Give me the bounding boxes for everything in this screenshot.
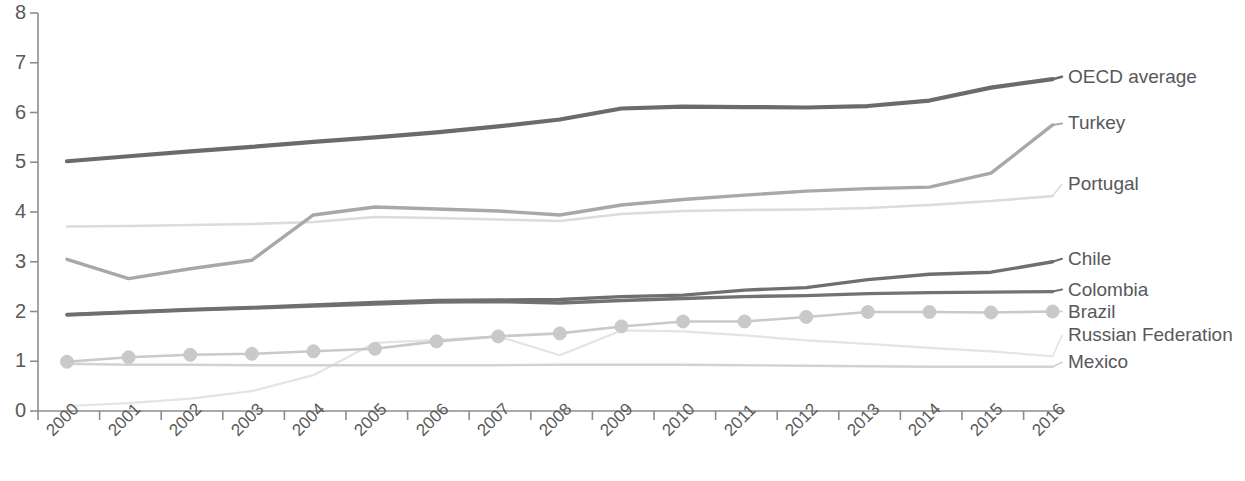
data-point-marker (122, 351, 135, 364)
data-point-marker (307, 345, 320, 358)
series-label-oecd-average: OECD average (1068, 67, 1197, 86)
series-chile (67, 262, 1053, 315)
series-leader-line (1053, 77, 1062, 79)
series-leader-line (1053, 259, 1062, 262)
series-label-mexico: Mexico (1068, 352, 1128, 371)
data-point-marker (245, 347, 258, 360)
data-point-marker (615, 320, 628, 333)
data-point-marker (923, 305, 936, 318)
series-label-portugal: Portugal (1068, 174, 1139, 193)
series-label-chile: Chile (1068, 249, 1111, 268)
data-point-marker (800, 310, 813, 323)
series-mexico (67, 364, 1053, 367)
series-leader-line (1053, 290, 1062, 292)
series-label-russian-federation: Russian Federation (1068, 325, 1233, 344)
y-axis-tick-label: 0 (0, 400, 26, 420)
line-chart: 012345678 200020012002200320042005200620… (0, 0, 1245, 481)
data-point-marker (430, 335, 443, 348)
series-portugal (67, 196, 1053, 226)
series-label-turkey: Turkey (1068, 113, 1125, 132)
series-leader-line (1053, 123, 1062, 124)
data-point-marker (861, 305, 874, 318)
series-brazil (61, 305, 1060, 368)
data-point-marker (553, 327, 566, 340)
data-point-marker (738, 315, 751, 328)
y-axis-tick-label: 5 (0, 151, 26, 171)
series-leader-line (1053, 335, 1062, 356)
y-axis-tick-label: 1 (0, 350, 26, 370)
y-axis-tick-label: 2 (0, 301, 26, 321)
data-point-marker (492, 330, 505, 343)
y-axis-tick-label: 3 (0, 251, 26, 271)
data-point-marker (369, 342, 382, 355)
y-axis-tick-label: 6 (0, 102, 26, 122)
data-point-marker (985, 306, 998, 319)
series-leader-line (1053, 362, 1062, 366)
y-axis-tick-label: 7 (0, 52, 26, 72)
data-point-marker (61, 355, 74, 368)
y-axis-tick-label: 4 (0, 201, 26, 221)
data-point-marker (677, 315, 690, 328)
series-russian-federation (67, 330, 1053, 406)
series-leader-line (1053, 184, 1062, 196)
series-label-brazil: Brazil (1068, 302, 1116, 321)
series-label-colombia: Colombia (1068, 280, 1148, 299)
y-axis-tick-label: 8 (0, 2, 26, 22)
data-point-marker (184, 348, 197, 361)
series-oecd-average (67, 79, 1053, 161)
